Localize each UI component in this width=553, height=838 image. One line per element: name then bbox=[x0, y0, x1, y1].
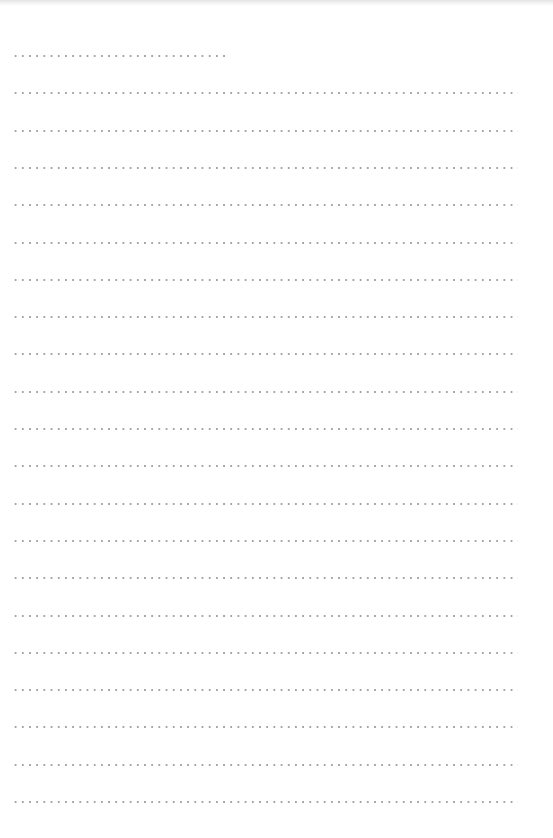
dotted-line bbox=[12, 316, 518, 318]
dotted-line bbox=[12, 689, 518, 691]
dotted-line bbox=[12, 391, 518, 393]
dotted-line bbox=[12, 242, 518, 244]
dotted-line bbox=[12, 279, 518, 281]
dotted-line bbox=[12, 764, 518, 766]
dotted-line bbox=[12, 167, 518, 169]
dotted-line bbox=[12, 652, 518, 654]
dotted-line bbox=[12, 204, 518, 206]
dotted-line bbox=[12, 577, 518, 579]
dotted-line bbox=[12, 92, 518, 94]
dotted-line bbox=[12, 801, 518, 803]
dotted-line bbox=[12, 615, 518, 617]
dotted-line bbox=[12, 353, 518, 355]
dotted-line bbox=[12, 540, 518, 542]
dotted-line bbox=[12, 726, 518, 728]
dotted-line bbox=[12, 503, 518, 505]
dotted-line-short bbox=[12, 55, 230, 57]
dotted-line bbox=[12, 465, 518, 467]
dotted-line bbox=[12, 130, 518, 132]
writing-sheet bbox=[0, 0, 553, 838]
dotted-line bbox=[12, 428, 518, 430]
